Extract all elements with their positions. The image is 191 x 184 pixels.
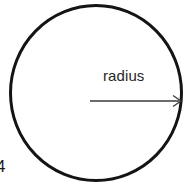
corner-page-artifact: 4 xyxy=(0,157,8,177)
radius-label: radius xyxy=(103,66,144,85)
diagram-canvas xyxy=(0,0,191,184)
circle-radius-diagram: radius 4 xyxy=(0,0,191,184)
circle-outline xyxy=(11,6,182,181)
